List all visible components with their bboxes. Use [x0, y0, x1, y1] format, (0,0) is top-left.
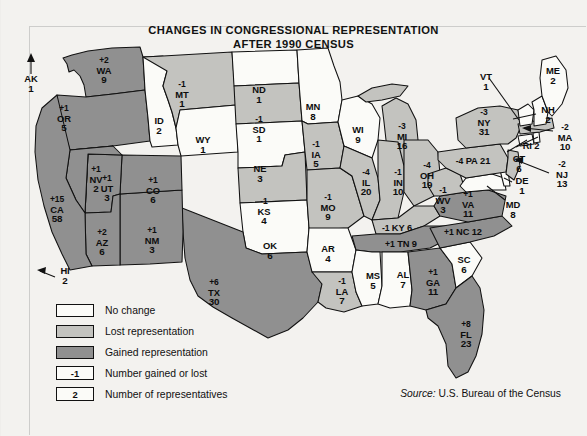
arrowhead-HI-icon [37, 267, 46, 274]
state-abbr-RI: RI [523, 141, 532, 151]
state-seats-MI: 16 [385, 141, 419, 151]
state-abbr-TN: TN [397, 239, 409, 249]
state-seats-AK: 1 [16, 84, 46, 94]
state-label-AK[interactable]: AK 1 [16, 74, 46, 93]
state-shape-MI-upper[interactable] [358, 84, 408, 102]
state-seats-VT: 1 [472, 82, 500, 92]
state-label-NM[interactable]: +1 NM 3 [135, 226, 169, 255]
state-seats-ME: 2 [538, 76, 568, 86]
state-seats-MO: 9 [312, 212, 344, 222]
state-label-SC[interactable]: SC 6 [449, 255, 479, 274]
state-delta-KY: -1 [382, 223, 389, 233]
state-label-CT[interactable]: CT 6 [505, 154, 533, 173]
state-seats-ID: 2 [144, 126, 174, 136]
state-seats-TN: 9 [412, 239, 417, 249]
legend-sample-delta: -1 [56, 366, 94, 380]
state-seats-CT: 6 [505, 164, 533, 174]
legend-item-count[interactable]: 2 Number of representatives [56, 384, 227, 404]
state-label-MT[interactable]: -1 MT 1 [164, 80, 200, 109]
state-label-NE[interactable]: NE 3 [244, 164, 276, 183]
state-label-OR[interactable]: +1 OR 5 [46, 104, 82, 133]
state-label-FL[interactable]: +8 FL 23 [450, 320, 482, 349]
state-label-OK[interactable]: OK 6 [254, 241, 286, 260]
state-seats-GA: 11 [417, 287, 449, 297]
state-label-KY[interactable]: -1 KY 6 [368, 224, 426, 234]
state-abbr-NC: NC [456, 227, 469, 237]
state-seats-FL: 23 [450, 339, 482, 349]
state-label-NY[interactable]: -3 NY 31 [468, 108, 500, 137]
state-seats-AR: 4 [313, 254, 343, 264]
state-delta-NC: +1 [444, 227, 454, 237]
state-seats-IA: 5 [301, 159, 331, 169]
state-label-HI[interactable]: HI 2 [52, 266, 78, 285]
state-label-AL[interactable]: AL 7 [388, 270, 418, 289]
state-label-SD[interactable]: -1 SD 1 [243, 115, 275, 144]
state-seats-WA: 9 [86, 75, 122, 85]
state-label-WI[interactable]: WI 9 [343, 125, 373, 144]
state-seats-ND: 1 [243, 95, 275, 105]
legend-item-lost[interactable]: Lost representation [56, 321, 227, 341]
state-label-MS[interactable]: MS 5 [358, 271, 388, 290]
state-shape-ND[interactable] [232, 50, 299, 86]
state-label-NC[interactable]: +1 NC 12 [427, 228, 499, 238]
state-seats-CO: 6 [137, 195, 169, 205]
state-label-MD[interactable]: MD 8 [498, 200, 528, 219]
state-label-MA[interactable]: -2 MA 10 [550, 123, 580, 152]
state-label-WA[interactable]: +2 WA 9 [86, 56, 122, 85]
arrowhead-AK-icon [27, 53, 35, 62]
state-label-UT[interactable]: +1 UT 3 [92, 174, 122, 203]
state-label-AR[interactable]: AR 4 [313, 244, 343, 263]
state-label-MI[interactable]: -3 MI 16 [385, 122, 419, 151]
state-label-AZ[interactable]: +2 AZ 6 [86, 228, 118, 257]
state-label-ME[interactable]: ME 2 [538, 66, 568, 85]
state-abbr-PA: PA [466, 156, 478, 166]
state-seats-AL: 7 [388, 280, 418, 290]
state-label-RI[interactable]: RI 2 [516, 142, 546, 152]
state-seats-NC: 12 [472, 227, 482, 237]
state-label-IA[interactable]: -1 IA 5 [301, 140, 331, 169]
state-seats-NY: 31 [468, 127, 500, 137]
state-label-WY[interactable]: WY 1 [186, 135, 220, 154]
state-seats-KY: 6 [407, 223, 412, 233]
legend-label-lost: Lost representation [105, 326, 194, 337]
state-seats-WV: 3 [427, 205, 459, 215]
state-label-IL[interactable]: -4 IL 20 [350, 168, 382, 197]
state-seats-OR: 5 [46, 123, 82, 133]
state-label-MN[interactable]: MN 8 [297, 102, 329, 121]
state-label-ID[interactable]: ID 2 [144, 116, 174, 135]
state-label-NJ[interactable]: -2 NJ 13 [547, 160, 577, 189]
state-label-MO[interactable]: -1 MO 9 [312, 193, 344, 222]
state-delta-TN: +1 [385, 239, 395, 249]
legend-sample-count: 2 [56, 387, 94, 401]
state-seats-NJ: 13 [547, 179, 577, 189]
state-label-PA[interactable]: -4 PA 21 [443, 157, 503, 167]
legend-label-delta: Number gained or lost [105, 368, 207, 379]
state-label-WV[interactable]: -1 WV 3 [427, 186, 459, 215]
state-seats-IL: 20 [350, 187, 382, 197]
state-seats-SD: 1 [243, 134, 275, 144]
state-seats-NH: 2 [533, 115, 563, 125]
state-abbr-KY: KY [392, 223, 405, 233]
state-seats-MD: 8 [498, 210, 528, 220]
state-label-VT[interactable]: VT 1 [472, 72, 500, 91]
state-seats-UT: 3 [92, 193, 122, 203]
state-seats-CA: 58 [38, 214, 76, 224]
state-label-CO[interactable]: +1 CO 6 [137, 176, 169, 205]
state-label-ND[interactable]: ND 1 [243, 85, 275, 104]
state-label-KS[interactable]: -1 KS 4 [248, 197, 280, 226]
state-label-TN[interactable]: +1 TN 9 [370, 240, 432, 250]
state-seats-MT: 1 [164, 99, 200, 109]
state-seats-AZ: 6 [86, 247, 118, 257]
state-label-NH[interactable]: NH 2 [533, 105, 563, 124]
legend: No change Lost representation Gained rep… [56, 300, 227, 405]
state-seats-DE: 1 [508, 186, 536, 196]
legend-item-no-change[interactable]: No change [56, 300, 227, 320]
legend-item-gained[interactable]: Gained representation [56, 342, 227, 362]
state-label-DE[interactable]: DE 1 [508, 176, 536, 195]
state-seats-WY: 1 [186, 145, 220, 155]
state-label-GA[interactable]: +1 GA 11 [417, 268, 449, 297]
state-label-CA[interactable]: +15 CA 58 [38, 195, 76, 224]
state-seats-RI: 2 [534, 141, 539, 151]
state-label-LA[interactable]: -1 LA 7 [327, 277, 357, 306]
legend-item-delta[interactable]: -1 Number gained or lost [56, 363, 227, 383]
